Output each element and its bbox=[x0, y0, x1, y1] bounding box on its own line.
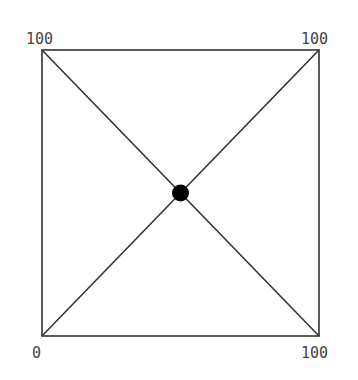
label-top-left: 100 bbox=[26, 30, 53, 48]
label-bottom-right: 100 bbox=[301, 344, 328, 362]
label-top-right: 100 bbox=[301, 30, 328, 48]
label-bottom-left: 0 bbox=[32, 344, 41, 362]
center-dot bbox=[172, 185, 189, 202]
diagram-canvas: 100 100 0 100 bbox=[0, 0, 358, 380]
